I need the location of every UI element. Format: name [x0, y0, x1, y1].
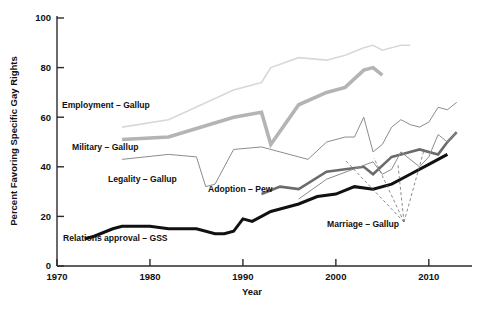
- x-tick-label-1980: 1980: [139, 271, 160, 282]
- x-axis: 19701980199020002010: [46, 259, 472, 282]
- y-axis-title: Percent Favoring Specific Gay Rights: [8, 56, 19, 225]
- military-label: Military – Gallup: [72, 142, 138, 152]
- y-tick-label-40: 40: [40, 161, 51, 172]
- gss-label: Relations approval – GSS: [63, 233, 168, 243]
- series-line-adoption-pew: [262, 132, 457, 194]
- x-tick-group: 19701980199020002010: [46, 259, 439, 282]
- leader-line-1: [345, 160, 404, 222]
- x-tick-label-2000: 2000: [325, 271, 346, 282]
- y-axis: 020406080100: [35, 12, 64, 271]
- x-axis-title: Year: [242, 286, 262, 297]
- employment-label: Employment – Gallup: [62, 100, 150, 110]
- x-tick-label-1990: 1990: [232, 271, 253, 282]
- marriage-label: Marriage – Gallup: [327, 219, 399, 229]
- adoption-label: Adoption – Pew: [208, 184, 273, 194]
- y-tick-label-0: 0: [46, 260, 51, 271]
- series-line-military-gallup: [122, 68, 382, 145]
- y-tick-label-100: 100: [35, 12, 51, 23]
- leader-line-3: [398, 165, 404, 222]
- legality-label: Legality – Gallup: [108, 174, 177, 184]
- y-tick-label-20: 20: [40, 211, 51, 222]
- y-tick-group: 020406080100: [35, 12, 64, 271]
- x-tick-label-2010: 2010: [418, 271, 439, 282]
- x-tick-label-1970: 1970: [46, 271, 67, 282]
- series-group: [85, 45, 457, 238]
- leader-line-4: [404, 150, 424, 222]
- leader-line-2: [374, 158, 404, 222]
- series-line-employment-gallup: [122, 45, 410, 127]
- chart-canvas: 020406080100 19701980199020002010 Year P…: [0, 0, 478, 309]
- gay-rights-line-chart: 020406080100 19701980199020002010 Year P…: [0, 0, 478, 309]
- y-tick-label-80: 80: [40, 62, 51, 73]
- y-tick-label-60: 60: [40, 112, 51, 123]
